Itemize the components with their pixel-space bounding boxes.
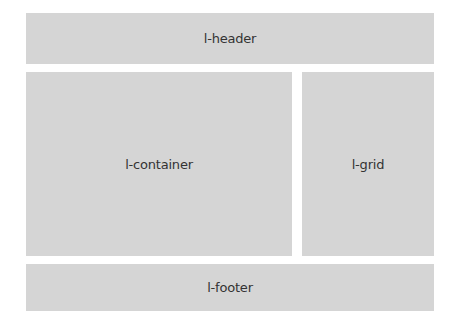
layout-footer-region: l-footer bbox=[26, 264, 434, 311]
layout-container-region: l-container bbox=[26, 72, 292, 256]
layout-grid-region: l-grid bbox=[302, 72, 434, 256]
container-label: l-container bbox=[125, 157, 193, 172]
layout-header-region: l-header bbox=[26, 13, 434, 64]
header-label: l-header bbox=[204, 31, 257, 46]
grid-label: l-grid bbox=[352, 157, 385, 172]
footer-label: l-footer bbox=[207, 280, 253, 295]
